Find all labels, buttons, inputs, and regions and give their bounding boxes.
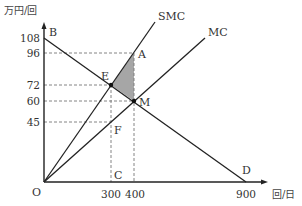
smc-label: SMC	[158, 10, 185, 23]
point-d-label: D	[242, 164, 251, 177]
point-a-label: A	[137, 48, 147, 61]
x-axis-unit: 回/日	[272, 189, 295, 200]
x-axis-arrow-icon	[261, 180, 268, 185]
x-tick-300: 300	[101, 188, 121, 200]
externality-diagram: 万円/回 108 96 72 60 45 300 400 900 回/日 O S…	[0, 0, 302, 206]
y-tick-96: 96	[27, 47, 41, 59]
point-m-marker	[132, 99, 136, 103]
mc-label: MC	[208, 26, 228, 39]
y-tick-60: 60	[27, 95, 40, 107]
y-axis-arrow-icon	[42, 22, 47, 29]
point-m-label: M	[139, 96, 150, 109]
x-tick-400: 400	[125, 188, 145, 200]
y-tick-108: 108	[20, 32, 40, 44]
y-tick-45: 45	[27, 116, 40, 128]
point-e-label: E	[101, 70, 109, 83]
origin-label: O	[32, 186, 41, 199]
y-axis-unit: 万円/回	[4, 5, 37, 16]
x-tick-900: 900	[236, 188, 256, 200]
point-f-label: F	[114, 124, 122, 137]
point-c-label: C	[114, 169, 122, 182]
point-b-label: B	[49, 26, 57, 39]
point-e-marker	[109, 83, 113, 87]
y-tick-72: 72	[27, 79, 40, 91]
mc-curve	[44, 38, 205, 182]
